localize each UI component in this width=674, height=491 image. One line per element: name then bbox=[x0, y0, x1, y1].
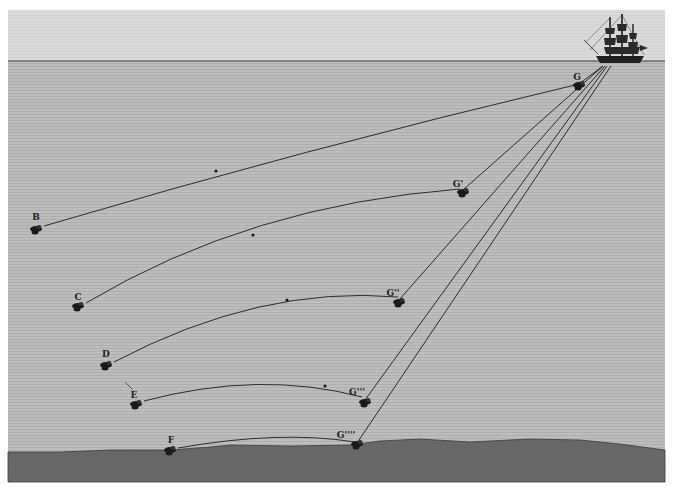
label-g3: G''' bbox=[349, 387, 365, 397]
label-b: B bbox=[32, 212, 40, 222]
water bbox=[8, 61, 665, 482]
label-g2: G'' bbox=[386, 288, 399, 298]
label-e: E bbox=[131, 390, 138, 400]
label-f: F bbox=[168, 435, 175, 445]
line-marker-icon bbox=[323, 384, 326, 387]
label-c: C bbox=[74, 292, 81, 302]
sky bbox=[8, 10, 665, 61]
label-g4: G'''' bbox=[337, 430, 356, 440]
label-g1: G' bbox=[453, 179, 463, 189]
ship-hull bbox=[596, 56, 644, 63]
line-marker-icon bbox=[214, 169, 217, 172]
line-marker-icon bbox=[285, 298, 288, 301]
sounding-diagram: BCDEFGG'G''G'''G'''' bbox=[0, 0, 674, 491]
label-d: D bbox=[102, 349, 110, 359]
label-g: G bbox=[573, 72, 581, 82]
line-marker-icon bbox=[251, 233, 254, 236]
